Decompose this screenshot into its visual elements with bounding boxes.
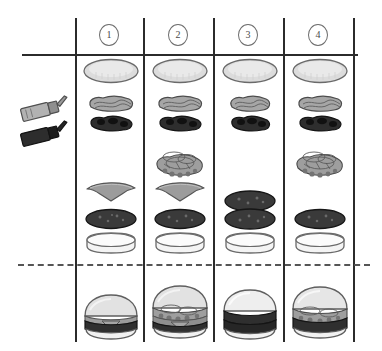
layer-top-bun xyxy=(82,58,140,84)
assembled-burger-3 xyxy=(216,272,284,346)
assembled-burger-4 xyxy=(286,272,354,346)
column-stack-2 xyxy=(146,56,214,262)
column-stack-1 xyxy=(77,56,145,262)
layer-sauce-dark xyxy=(85,113,137,135)
column-number-badge-4: 4 xyxy=(308,24,328,46)
assembled-burger-1 xyxy=(77,272,145,346)
column-stack-3 xyxy=(216,56,284,262)
layer-sauce-light xyxy=(85,93,137,115)
layer-top-bun xyxy=(151,58,209,84)
layer-sauce-light xyxy=(226,93,274,115)
layer-patty xyxy=(84,208,138,230)
column-header-4: 4 xyxy=(295,24,341,46)
dashed-divider xyxy=(18,264,370,266)
column-number-badge-2: 2 xyxy=(168,24,188,46)
layer-bottom-bun xyxy=(154,232,206,256)
layer-cheese xyxy=(84,180,138,202)
layer-patty xyxy=(223,208,277,230)
layer-sauce-light xyxy=(154,93,206,115)
assembled-burger-2 xyxy=(146,272,214,346)
layer-sauce-dark xyxy=(226,113,274,135)
layer-bottom-bun xyxy=(85,232,137,256)
squeeze-bottle-light-icon xyxy=(18,96,72,122)
layer-bottom-bun xyxy=(224,232,276,256)
diagram-canvas: 1 2 3 4 xyxy=(0,0,382,351)
column-header-2: 2 xyxy=(155,24,201,46)
layer-sauce-light xyxy=(294,93,346,115)
layer-top-bun xyxy=(291,58,349,84)
squeeze-bottle-dark-icon xyxy=(18,121,72,147)
layer-patty xyxy=(293,208,347,230)
column-header-3: 3 xyxy=(225,24,271,46)
layer-patty xyxy=(153,208,207,230)
column-number-badge-3: 3 xyxy=(238,24,258,46)
layer-sauce-dark xyxy=(154,113,206,135)
column-header-1: 1 xyxy=(86,24,132,46)
layer-bottom-bun xyxy=(294,232,346,256)
column-stack-4 xyxy=(286,56,354,262)
layer-top-bun xyxy=(221,58,279,84)
layer-cheese xyxy=(153,180,207,202)
layer-sauce-dark xyxy=(294,113,346,135)
layer-veggies xyxy=(152,148,208,182)
layer-veggies xyxy=(292,148,348,182)
tool-legend xyxy=(16,96,74,150)
column-number-badge-1: 1 xyxy=(99,24,119,46)
